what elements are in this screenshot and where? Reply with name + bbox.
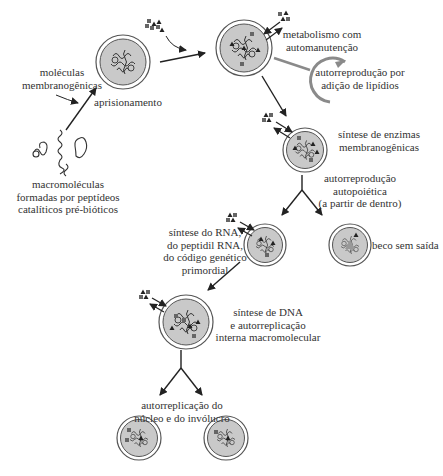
label-line: síntese de enzimas	[331, 128, 427, 141]
label-line: autorreplicação do	[130, 399, 234, 412]
label-line: macromoléculas	[8, 178, 128, 191]
label-line: beco sem saída	[372, 239, 439, 252]
label-line: síntese de DNA	[206, 306, 330, 319]
label-line: do código genético	[155, 251, 255, 264]
label-line: automanutenção	[282, 41, 362, 54]
cell-metabolismo	[216, 20, 272, 76]
label-line: membranogênicas	[22, 79, 102, 92]
label-line: autorreprodução	[312, 172, 408, 185]
label-rna: síntese do RNA, do peptidil RNA, do códi…	[155, 226, 255, 276]
label-line: metabolismo com	[282, 28, 362, 41]
label-line: síntese do RNA,	[155, 226, 255, 239]
label-metabolismo: metabolismo com automanutenção	[282, 28, 362, 53]
label-line: autorreprodução por	[312, 66, 408, 79]
label-lipidios: autorreprodução por adição de lipídios	[312, 66, 408, 91]
label-line: aprisionamento	[92, 96, 164, 109]
label-line: adição de lipídios	[312, 79, 408, 92]
label-line: formadas por peptídeos	[8, 191, 128, 204]
label-line: núcleo e do invólucro	[130, 412, 234, 425]
label-aprisionamento: aprisionamento	[92, 96, 164, 109]
label-nucleo: autorreplicação do núcleo e do invólucro	[130, 399, 234, 424]
diagram-canvas: moléculas membranogênicas aprisionamento…	[0, 0, 443, 476]
cell-beco	[329, 224, 371, 266]
label-dna: síntese de DNA e autorreplicação interna…	[206, 306, 330, 344]
cell-enzimas	[283, 128, 327, 172]
label-line: do peptidil RNA,	[155, 239, 255, 252]
label-line: membranogênicas	[331, 141, 427, 154]
label-moleculas: moléculas membranogênicas	[22, 66, 102, 91]
label-macromoleculas: macromoléculas formadas por peptídeos ca…	[8, 178, 128, 216]
label-line: moléculas	[22, 66, 102, 79]
cell-dna	[159, 295, 213, 349]
label-enzimas: síntese de enzimas membranogênicas	[331, 128, 427, 153]
label-line: catalíticos pré-bióticos	[8, 203, 128, 216]
cell-aprisionamento	[96, 35, 150, 89]
label-line: (a partir de dentro)	[312, 197, 408, 210]
label-beco: beco sem saída	[372, 239, 439, 252]
label-line: autopoiética	[312, 185, 408, 198]
free-macromolecules	[33, 130, 87, 176]
label-autopoietica: autorreprodução autopoiética (a partir d…	[312, 172, 408, 210]
label-line: interna macromolecular	[206, 331, 330, 344]
label-line: e autorreplicação	[206, 319, 330, 332]
label-line: primordial	[155, 264, 255, 277]
